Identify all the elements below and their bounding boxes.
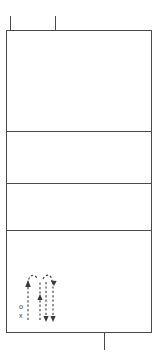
- marker-o: o: [19, 303, 23, 310]
- marker-x: x: [19, 312, 23, 319]
- divider-2: [6, 183, 152, 184]
- divider-3: [6, 230, 152, 231]
- tick-top-mid: [55, 16, 56, 31]
- plan-outline: [6, 30, 152, 333]
- tick-bottom-mid: [104, 333, 105, 350]
- drawing-canvas: o x: [0, 0, 161, 354]
- divider-1: [6, 131, 152, 132]
- tick-top-left: [10, 16, 11, 31]
